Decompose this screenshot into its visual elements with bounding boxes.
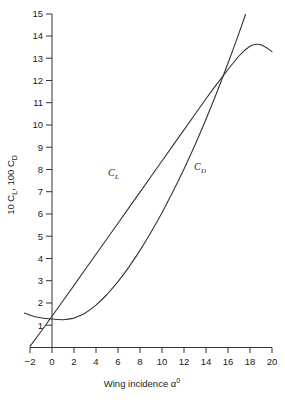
y-axis-title-mid: , 100 C [5,160,16,191]
y-tick-label: 8 [38,164,43,175]
y-tick-label: 10 [32,119,43,130]
x-tick-label: 4 [93,356,98,367]
cd-label-text: C [194,161,201,172]
y-tick-label: 11 [33,97,43,108]
y-tick-label: 4 [38,253,43,264]
cl-label-subscript: L [114,173,119,181]
cd-curve [25,15,246,320]
y-tick-label: 6 [38,208,43,219]
cl-label-text: C [108,167,115,178]
x-tick-label: 20 [267,356,278,367]
x-tick-label: 10 [157,356,168,367]
y-tick-label: 14 [32,30,43,41]
chart-container: −2 0 2 4 6 8 10 12 14 16 18 20 [0,0,285,402]
cd-curve-label: C D [194,161,206,175]
svg-text:Wing incidence α0: Wing incidence α0 [104,377,181,389]
x-tick-label: 2 [71,356,76,367]
y-tick-label: 15 [32,8,43,19]
y-tick-label: 7 [38,186,43,197]
y-axis-tick-labels: 1 2 3 4 5 6 7 8 9 10 11 12 13 14 15 [32,8,43,330]
y-axis-title-text: 10 C [5,195,16,215]
y-tick-label: 2 [38,297,43,308]
lift-drag-coefficient-chart: −2 0 2 4 6 8 10 12 14 16 18 20 [0,0,285,402]
cl-curve [30,44,272,346]
x-tick-label: 16 [223,356,234,367]
x-tick-label: 6 [115,356,120,367]
x-axis-tick-labels: −2 0 2 4 6 8 10 12 14 16 18 20 [25,356,278,367]
y-tick-label: 12 [32,75,43,86]
cl-curve-label: C L [108,167,119,181]
y-axis-title: 10 CL, 100 CD [5,155,18,215]
y-tick-label: 3 [38,275,43,286]
x-axis-title-degree: 0 [176,377,180,384]
y-tick-label: 9 [38,142,43,153]
x-tick-label: 12 [179,356,190,367]
x-tick-label: 0 [49,356,54,367]
x-axis-title: Wing incidence α0 [104,377,181,389]
y-tick-label: 13 [32,53,43,64]
y-axis-ticks [46,14,52,325]
y-tick-label: 5 [38,231,43,242]
x-tick-label: 18 [245,356,256,367]
y-axis-title-sub-d: D [11,155,18,160]
x-tick-label: 8 [137,356,142,367]
x-tick-label: 14 [201,356,212,367]
x-tick-label: −2 [25,356,36,367]
svg-text:10 CL, 100 CD: 10 CL, 100 CD [5,155,18,215]
x-axis-title-text: Wing incidence α [104,378,177,389]
x-axis-ticks [30,348,272,354]
cd-label-subscript: D [200,167,206,175]
